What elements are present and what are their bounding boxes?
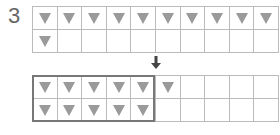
triangle-icon xyxy=(88,13,100,24)
grid-cell xyxy=(205,7,230,30)
triangle-icon xyxy=(88,105,100,116)
triangle-icon xyxy=(113,105,125,116)
bottom-grid xyxy=(32,75,279,122)
triangle-icon xyxy=(211,13,223,24)
triangle-icon xyxy=(260,13,272,24)
triangle-icon xyxy=(236,13,248,24)
grid-cell xyxy=(205,76,230,99)
problem-number: 3 xyxy=(8,4,20,28)
grid-cell xyxy=(33,76,58,99)
grid-cell xyxy=(131,7,156,30)
grid-cell xyxy=(254,76,279,99)
grid-cell xyxy=(230,30,255,53)
grid-cell xyxy=(254,30,279,53)
grid-cell xyxy=(131,76,156,99)
grid-cell xyxy=(230,99,255,122)
grid-cell xyxy=(131,99,156,122)
grid-cell xyxy=(58,76,83,99)
grid-cell xyxy=(82,7,107,30)
grid-cell xyxy=(181,76,206,99)
grid-cell xyxy=(205,99,230,122)
triangle-icon xyxy=(39,82,51,93)
triangle-icon xyxy=(39,105,51,116)
triangle-icon xyxy=(186,13,198,24)
grid-cell xyxy=(156,99,181,122)
grid-cell xyxy=(82,30,107,53)
grid-cell xyxy=(181,30,206,53)
grid-cell xyxy=(181,99,206,122)
grid-cell xyxy=(254,99,279,122)
grid-cell xyxy=(58,7,83,30)
top-grid xyxy=(32,6,279,53)
grid-cell xyxy=(33,30,58,53)
grid-cell xyxy=(33,99,58,122)
grid-cell xyxy=(107,30,132,53)
grid-cell xyxy=(107,7,132,30)
grid-cell xyxy=(156,7,181,30)
triangle-icon xyxy=(39,13,51,24)
grid-cell xyxy=(33,7,58,30)
triangle-icon xyxy=(113,82,125,93)
triangle-icon xyxy=(88,82,100,93)
down-arrow-icon xyxy=(151,56,161,70)
grid-cell xyxy=(58,99,83,122)
triangle-icon xyxy=(113,13,125,24)
grid-cell xyxy=(107,99,132,122)
triangle-icon xyxy=(63,13,75,24)
grid-cell xyxy=(82,99,107,122)
grid-cell xyxy=(181,7,206,30)
grid-cell xyxy=(156,76,181,99)
triangle-icon xyxy=(162,13,174,24)
triangle-icon xyxy=(39,36,51,47)
grid-cell xyxy=(230,7,255,30)
triangle-icon xyxy=(137,13,149,24)
grid-cell xyxy=(58,30,83,53)
grid-cell xyxy=(205,30,230,53)
triangle-icon xyxy=(63,82,75,93)
grid-cell xyxy=(107,76,132,99)
triangle-icon xyxy=(137,82,149,93)
grid-cell xyxy=(82,76,107,99)
triangle-icon xyxy=(137,105,149,116)
grid-cell xyxy=(254,7,279,30)
triangle-icon xyxy=(162,82,174,93)
grid-cell xyxy=(131,30,156,53)
triangle-icon xyxy=(63,105,75,116)
grid-cell xyxy=(230,76,255,99)
grid-cell xyxy=(156,30,181,53)
